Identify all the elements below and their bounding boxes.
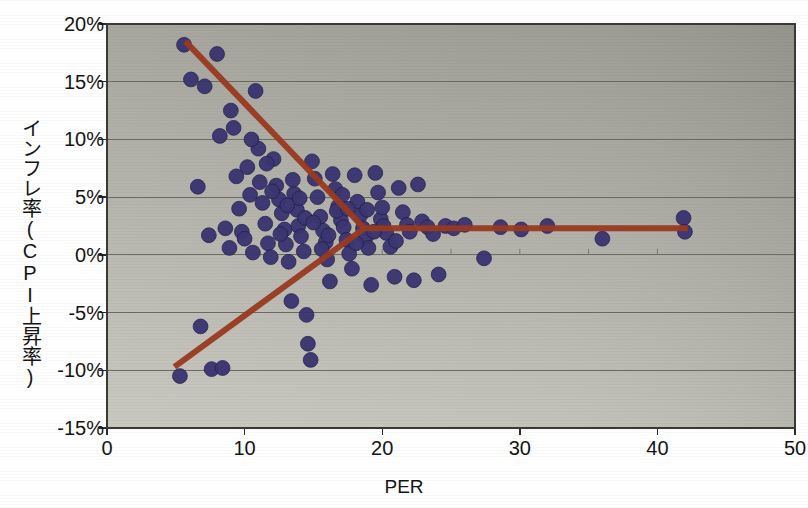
scatter-point <box>371 185 386 200</box>
scatter-point <box>595 231 610 246</box>
scatter-point <box>252 175 267 190</box>
scatter-point <box>201 228 216 243</box>
scatter-point <box>281 254 296 269</box>
scatter-point <box>173 369 188 384</box>
scatter-point <box>285 172 300 187</box>
scatter-point <box>676 211 691 226</box>
scatter-point <box>245 245 260 260</box>
x-axis-title: PER <box>0 476 808 498</box>
scatter-point <box>273 227 288 242</box>
scatter-point <box>411 177 426 192</box>
y-axis-tick-label: 5% <box>30 186 104 209</box>
scatter-point <box>391 181 406 196</box>
scatter-point <box>237 231 252 246</box>
scatter-point <box>193 319 208 334</box>
scatter-point <box>364 277 379 292</box>
scatter-point <box>197 79 212 94</box>
scatter-point <box>244 132 259 147</box>
scatter-point <box>232 201 247 216</box>
scatter-point <box>406 273 421 288</box>
scatter-point <box>265 184 280 199</box>
scatter-point <box>184 72 199 87</box>
y-axis-tick-label: 20% <box>30 13 104 36</box>
scatter-point <box>223 103 238 118</box>
scatter-point <box>368 166 383 181</box>
scatter-point <box>387 269 402 284</box>
scatter-point <box>240 160 255 175</box>
scatter-point <box>296 244 311 259</box>
y-axis-tick-labels: 20%15%10%5%0%-5%-10%-15% <box>26 0 104 460</box>
scatter-point <box>190 179 205 194</box>
scatter-point <box>210 47 225 62</box>
scatter-point <box>360 202 375 217</box>
x-axis-tick-label: 10 <box>215 437 275 460</box>
scatter-point <box>310 190 325 205</box>
scatter-point <box>306 215 321 230</box>
scatter-point <box>222 241 237 256</box>
y-axis-tick-label: -5% <box>30 302 104 325</box>
scatter-point <box>321 228 336 243</box>
x-axis-tick-label: 50 <box>765 437 808 460</box>
scatter-point <box>218 221 233 236</box>
scatter-point <box>261 236 276 251</box>
scatter-point <box>284 294 299 309</box>
y-axis-tick-label: 0% <box>30 244 104 267</box>
scatter-point <box>299 307 314 322</box>
scatter-point <box>301 336 316 351</box>
scatter-point <box>226 120 241 135</box>
scatter-point <box>345 261 360 276</box>
scatter-point <box>263 250 278 265</box>
scatter-point <box>212 129 227 144</box>
scatter-chart: インフレ率(CPI上昇率) PER 20%15%10%5%0%-5%-10%-1… <box>0 0 808 508</box>
scatter-point <box>323 274 338 289</box>
scatter-point <box>477 251 492 266</box>
scatter-point <box>389 234 404 249</box>
scatter-point <box>248 84 263 99</box>
scatter-point <box>258 216 273 231</box>
x-axis-tick-label: 0 <box>77 437 137 460</box>
y-axis-tick-label: 10% <box>30 128 104 151</box>
y-axis-tick-label: 15% <box>30 71 104 94</box>
y-axis-tick-label: -10% <box>30 359 104 382</box>
scatter-point <box>325 167 340 182</box>
scatter-point <box>215 361 230 376</box>
plot-canvas <box>0 0 808 508</box>
scatter-point <box>431 267 446 282</box>
x-axis-tick-label: 20 <box>352 437 412 460</box>
x-axis-tick-label: 30 <box>490 437 550 460</box>
scatter-point <box>259 156 274 171</box>
scatter-point <box>303 353 318 368</box>
scatter-point <box>375 200 390 215</box>
scatter-point <box>294 229 309 244</box>
scatter-point <box>347 168 362 183</box>
scatter-point <box>336 220 351 235</box>
scatter-point <box>292 191 307 206</box>
x-axis-tick-label: 40 <box>627 437 687 460</box>
